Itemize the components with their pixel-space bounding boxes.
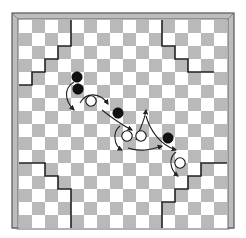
board-cell [110,189,123,202]
board-cell [32,150,45,163]
board-cell [188,98,201,111]
board-cell [58,150,71,163]
board-cell [162,215,175,228]
board-cell [45,163,58,176]
board-cell [162,46,175,59]
board-cell [19,137,32,150]
board-cell [136,33,149,46]
board-cell [19,124,32,137]
board-cell [32,124,45,137]
board-cell [71,33,84,46]
board-cell [58,124,71,137]
board-cell [136,72,149,85]
board-cell [201,46,214,59]
board-cell [149,176,162,189]
board-cell [188,124,201,137]
board-cell [136,98,149,111]
board-cell [123,20,136,33]
board-cell [32,46,45,59]
board-cell [201,215,214,228]
board-cell [175,85,188,98]
board-cell [214,72,227,85]
board-cell [32,215,45,228]
board-cell [214,150,227,163]
board-cell [97,124,110,137]
board-cell [32,189,45,202]
board-cell [84,189,97,202]
board-cell [110,85,123,98]
board-cell [201,85,214,98]
board-cell [162,150,175,163]
board-cell [58,59,71,72]
board-cell [19,215,32,228]
board-cell [214,189,227,202]
board-cell [97,46,110,59]
board-cell [71,189,84,202]
board-cell [84,20,97,33]
board-cell [19,163,32,176]
board-cell [97,111,110,124]
board-cell [58,111,71,124]
board-cell [32,111,45,124]
board-cell [110,72,123,85]
white-stone-icon [86,96,96,106]
board-cell [201,98,214,111]
board-cell [188,189,201,202]
board-cell [175,46,188,59]
board-cell [201,33,214,46]
board-cell [188,85,201,98]
board-cell [214,176,227,189]
board-cell [188,202,201,215]
board-cell [58,46,71,59]
board-cell [188,150,201,163]
board-cell [136,46,149,59]
board-cell [45,215,58,228]
black-stone-icon [72,72,82,82]
board-cell [97,176,110,189]
board-cell [188,46,201,59]
board-cell [19,150,32,163]
board-cell [175,202,188,215]
board-cell [71,202,84,215]
white-stone-icon [122,131,132,141]
board-cell [32,20,45,33]
board-cell [84,124,97,137]
board-cell [162,72,175,85]
board-cell [162,98,175,111]
board-cell [71,46,84,59]
board-cell [97,33,110,46]
black-stone-icon [113,108,123,118]
board-cell [123,85,136,98]
board-cell [149,98,162,111]
board-cell [84,202,97,215]
board-cell [58,163,71,176]
board-cell [175,137,188,150]
board-cell [175,124,188,137]
white-stone-icon [136,131,146,141]
board-cell [149,189,162,202]
board-cell [175,189,188,202]
board-cell [97,20,110,33]
board-cell [149,215,162,228]
board-cell [123,202,136,215]
board-cell [58,33,71,46]
board-cell [214,20,227,33]
board-cell [84,33,97,46]
board-cell [97,72,110,85]
board-cell [162,202,175,215]
board-cell [136,202,149,215]
board-cell [214,111,227,124]
board-cell [162,189,175,202]
board-cell [19,98,32,111]
board-cell [175,33,188,46]
board-cell [201,137,214,150]
board-cell [45,111,58,124]
board-cell [97,59,110,72]
board-cell [214,98,227,111]
board-cell [19,189,32,202]
board-cell [84,59,97,72]
board-cell [188,176,201,189]
board-cell [32,33,45,46]
board-cell [175,215,188,228]
board-cell [162,176,175,189]
